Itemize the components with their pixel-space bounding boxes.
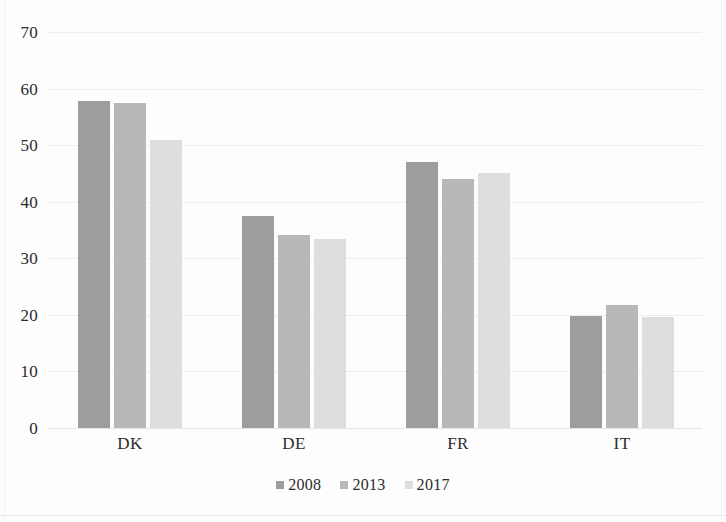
y-tick-label-60: 60 [0, 80, 38, 97]
bar-IT-2017 [642, 317, 674, 428]
x-tick-label-DE: DE [282, 434, 305, 454]
y-tick-label-10: 10 [0, 363, 38, 380]
bar-DK-2017 [150, 140, 182, 429]
bar-FR-2008 [406, 162, 438, 428]
bar-FR-2013 [442, 179, 474, 428]
bar-chart: 706050403020100 DKDEFRIT 200820132017 [0, 0, 726, 522]
bar-IT-2013 [606, 305, 638, 428]
legend-swatch-icon-2017 [405, 481, 413, 489]
x-axis-category-labels: DKDEFRIT [47, 434, 702, 460]
legend: 200820132017 [0, 477, 726, 493]
x-tick-label-DK: DK [117, 434, 142, 454]
legend-swatch-icon-2008 [276, 481, 284, 489]
bars-layer [47, 32, 702, 428]
legend-label-2017: 2017 [417, 477, 450, 493]
legend-item-2008[interactable]: 2008 [276, 477, 321, 493]
bar-DE-2013 [278, 235, 310, 428]
legend-label-2008: 2008 [288, 477, 321, 493]
x-tick-label-IT: IT [614, 434, 631, 454]
plot-area [47, 32, 702, 428]
y-tick-label-30: 30 [0, 250, 38, 267]
y-tick-label-70: 70 [0, 24, 38, 41]
legend-swatch-icon-2013 [340, 481, 348, 489]
bar-DK-2013 [114, 103, 146, 428]
y-tick-label-40: 40 [0, 193, 38, 210]
legend-item-2017[interactable]: 2017 [405, 477, 450, 493]
x-tick-label-FR: FR [447, 434, 469, 454]
y-tick-label-50: 50 [0, 137, 38, 154]
gridline-0 [47, 428, 702, 429]
y-tick-label-0: 0 [0, 420, 38, 437]
y-tick-label-20: 20 [0, 306, 38, 323]
page-edge-line-right [721, 0, 722, 522]
page-edge-line-bottom [0, 515, 726, 516]
legend-label-2013: 2013 [352, 477, 385, 493]
bar-DK-2008 [78, 101, 110, 428]
bar-FR-2017 [478, 173, 510, 428]
bar-DE-2008 [242, 216, 274, 428]
bar-IT-2008 [570, 316, 602, 428]
bar-DE-2017 [314, 239, 346, 429]
legend-item-2013[interactable]: 2013 [340, 477, 385, 493]
y-axis-tick-labels: 706050403020100 [0, 32, 38, 428]
